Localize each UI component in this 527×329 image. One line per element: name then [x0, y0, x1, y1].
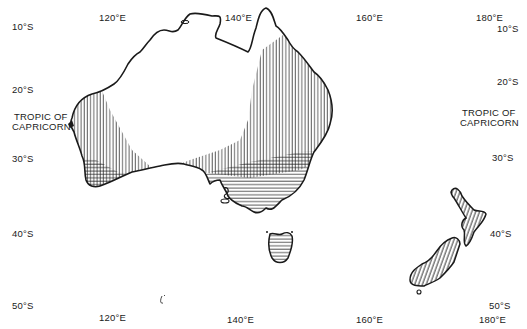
lon-label-top-160: 160°E — [356, 12, 383, 23]
lon-label-bottom-160: 160°E — [356, 314, 383, 325]
lon-label-bottom-180: 180°E — [479, 314, 506, 325]
lon-label-top-140: 140°E — [225, 12, 252, 23]
lat-label-right-50: 50°S — [489, 300, 511, 311]
tropic-label-right-line2: CAPRICORN — [460, 117, 519, 128]
new-zealand-south-island — [410, 237, 460, 286]
lat-label-left-40: 40°S — [12, 228, 34, 239]
lon-label-top-180: 180°E — [476, 12, 503, 23]
lat-label-right-40: 40°S — [490, 228, 512, 239]
lat-label-left-50: 50°S — [12, 300, 34, 311]
stray-mark — [161, 295, 165, 303]
kangaroo-island — [221, 199, 229, 203]
lat-label-left-30: 30°S — [12, 153, 34, 164]
australia-shading — [60, 30, 340, 230]
map-canvas — [0, 0, 527, 329]
melville-island — [181, 20, 189, 23]
lat-label-left-10: 10°S — [12, 21, 34, 32]
tropic-label-left-line2: CAPRICORN — [12, 121, 71, 132]
lon-label-top-120: 120°E — [99, 12, 126, 23]
lat-label-right-20: 20°S — [497, 76, 519, 87]
lon-label-bottom-140: 140°E — [227, 314, 254, 325]
lat-label-right-10: 10°S — [497, 23, 519, 34]
lat-label-right-30: 30°S — [492, 152, 514, 163]
tasmania — [269, 233, 293, 263]
stewart-island — [417, 290, 421, 294]
lon-label-bottom-120: 120°E — [99, 312, 126, 323]
lat-label-left-20: 20°S — [12, 84, 34, 95]
